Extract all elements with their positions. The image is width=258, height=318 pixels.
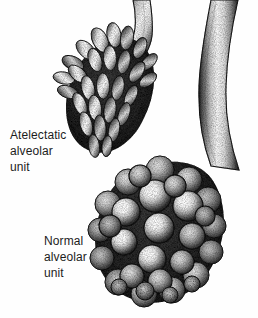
- label-atelectatic-alveolar-unit: Atelectatic alveolar unit: [10, 127, 66, 175]
- label-atelectatic-line3: unit: [10, 159, 66, 175]
- figure-root: Atelectatic alveolar unit Normal alveola…: [0, 0, 258, 318]
- label-normal-alveolar-unit: Normal alveolar unit: [44, 233, 87, 281]
- label-normal-line3: unit: [44, 265, 87, 281]
- label-normal-line1: Normal: [44, 233, 87, 249]
- label-normal-line2: alveolar: [44, 249, 87, 265]
- label-atelectatic-line1: Atelectatic: [10, 127, 66, 143]
- label-atelectatic-line2: alveolar: [10, 143, 66, 159]
